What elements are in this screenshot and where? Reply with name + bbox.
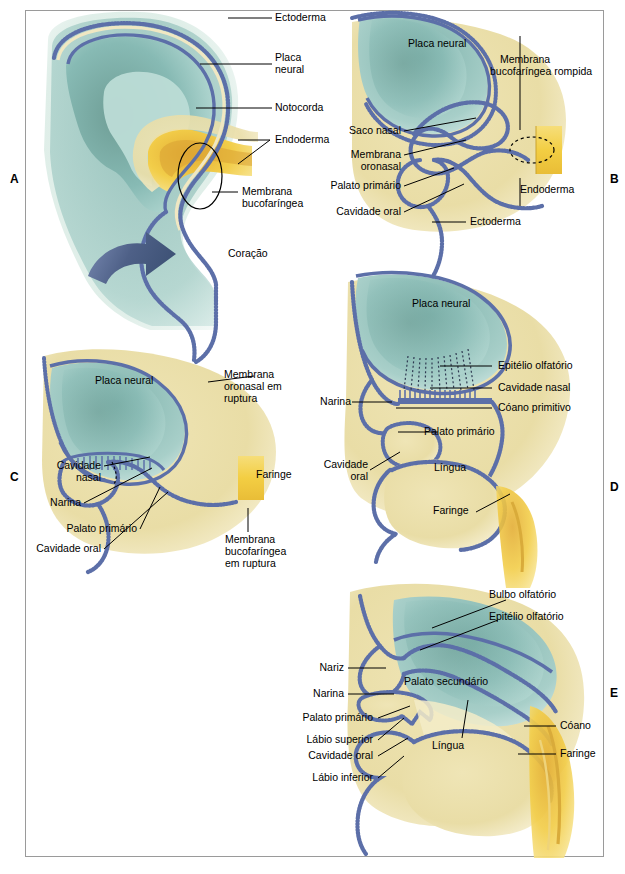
panel-c-label-faringe: Faringe xyxy=(256,469,292,481)
panel-c-label-membrana-bucofaringea-ruptura-line2: bucofaríngea xyxy=(225,546,286,558)
panel-c-label-cavidade-oral: Cavidade oral xyxy=(36,543,101,555)
panel-a-label-membrana-bucofaringea-line1: Membrana xyxy=(242,186,292,198)
panel-c-label-palato-primario: Palato primário xyxy=(36,523,137,535)
panel-b-label-cavidade-oral: Cavidade oral xyxy=(318,206,401,218)
panel-letter-a: A xyxy=(10,172,19,186)
panel-e-label-narina: Narina xyxy=(293,688,344,700)
panel-c-label-placa-neural: Placa neural xyxy=(95,375,153,387)
embryology-figure: A B C D E Ectoderma Placa neural Notocor… xyxy=(0,0,625,874)
panel-b-label-ectoderma: Ectoderma xyxy=(470,216,521,228)
panel-b-label-membrana-oronasal-line2: oronasal xyxy=(333,161,401,173)
panel-a-label-placa-neural-line1: Placa xyxy=(275,52,301,64)
panel-d-label-faringe: Faringe xyxy=(433,505,469,517)
panel-b-label-saco-nasal: Saco nasal xyxy=(333,125,401,137)
panel-d-label-palato-primario: Palato primário xyxy=(424,426,495,438)
panel-c-label-membrana-bucofaringea-ruptura-line3: em ruptura xyxy=(225,558,276,570)
panel-c-label-membrana-oronasal-ruptura-line3: ruptura xyxy=(224,393,257,405)
panel-a-label-notocorda: Notocorda xyxy=(275,102,323,114)
panel-b-label-endoderma: Endoderma xyxy=(520,184,574,196)
panel-b-label-membrana-bucofaringea-rompida-line1: Membrana xyxy=(500,54,550,66)
panel-e-label-faringe: Faringe xyxy=(560,748,596,760)
panel-e-label-palato-primario: Palato primário xyxy=(272,712,373,724)
panel-a-label-endoderma: Endoderma xyxy=(275,134,329,146)
panel-c-label-narina: Narina xyxy=(36,497,81,509)
panel-e-label-labio-inferior: Lábio inferior xyxy=(272,772,373,784)
panel-b-label-palato-primario: Palato primário xyxy=(318,180,401,192)
panel-letter-d: D xyxy=(610,480,619,494)
panel-c-label-membrana-oronasal-ruptura-line1: Membrana xyxy=(224,369,274,381)
panel-e-label-bulbo-olfatorio: Bulbo olfatório xyxy=(489,589,556,601)
panel-e-label-cavidade-oral: Cavidade oral xyxy=(272,750,373,762)
panel-e-label-lingua: Língua xyxy=(432,740,464,752)
panel-d-label-lingua: Língua xyxy=(434,462,466,474)
panel-d-label-cavidade-oral-line2: oral xyxy=(300,471,368,483)
panel-b-label-membrana-bucofaringea-rompida-line2: bucofaríngea rompida xyxy=(490,66,592,78)
panel-letter-b: B xyxy=(610,172,619,186)
panel-c-label-membrana-bucofaringea-ruptura-line1: Membrana xyxy=(225,534,275,546)
panel-a-label-placa-neural-line2: neural xyxy=(275,64,304,76)
panel-c-label-cavidade-nasal-line2: nasal xyxy=(36,472,101,484)
panel-d-label-cavidade-nasal: Cavidade nasal xyxy=(498,382,570,394)
panel-d-label-placa-neural: Placa neural xyxy=(412,298,470,310)
panel-b-label-membrana-oronasal-line1: Membrana xyxy=(333,149,401,161)
panel-e-label-palato-secundario: Palato secundário xyxy=(404,676,488,688)
panel-a-label-membrana-bucofaringea-line2: bucofaríngea xyxy=(242,198,303,210)
panel-e-label-nariz: Nariz xyxy=(300,662,344,674)
panel-d-label-cavidade-oral-line1: Cavidade xyxy=(300,459,368,471)
panel-a-label-ectoderma: Ectoderma xyxy=(275,12,326,24)
panel-d-label-coano-primitivo: Cóano primitivo xyxy=(498,402,571,414)
panel-b-label-placa-neural: Placa neural xyxy=(408,38,466,50)
panel-letter-e: E xyxy=(610,686,618,700)
panel-a-label-coracao: Coração xyxy=(228,248,268,260)
panel-d-label-epitelio-olfatorio: Epitélio olfatório xyxy=(498,360,573,372)
panel-d-label-narina: Narina xyxy=(307,396,351,408)
panel-c-label-cavidade-nasal-line1: Cavidade xyxy=(36,460,101,472)
panel-e-label-coano: Cóano xyxy=(560,720,591,732)
panel-e-label-epitelio-olfatorio: Epitélio olfatório xyxy=(489,611,564,623)
panel-c-label-membrana-oronasal-ruptura-line2: oronasal em xyxy=(224,381,282,393)
panel-letter-c: C xyxy=(10,470,19,484)
panel-e-label-labio-superior: Lábio superior xyxy=(272,734,373,746)
